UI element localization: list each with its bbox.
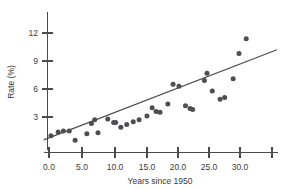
data-point <box>218 97 223 102</box>
x-tick-label-0: 0.0 <box>43 162 55 172</box>
y-tick-label-3: 3 <box>33 112 38 122</box>
data-point <box>176 84 181 89</box>
data-point <box>95 130 100 135</box>
data-point <box>137 117 142 122</box>
y-axis-title: Rate (%) <box>6 65 16 99</box>
data-point <box>237 51 242 56</box>
x-tick-label-5: 5.0 <box>76 162 88 172</box>
data-point <box>158 110 163 115</box>
y-tick-label-12: 12 <box>29 28 39 38</box>
scatter-chart: 12 9 6 3 0.0 5.0 10.0 15.0 20.0 25.0 30.… <box>0 0 285 189</box>
data-point <box>92 117 97 122</box>
data-point <box>231 76 236 81</box>
data-point <box>118 125 123 130</box>
data-point <box>210 88 215 93</box>
data-point <box>61 129 66 134</box>
x-tick-label-10: 10.0 <box>107 162 124 172</box>
plot-area: 12 9 6 3 0.0 5.0 10.0 15.0 20.0 25.0 30.… <box>0 0 285 189</box>
data-point <box>73 138 78 143</box>
x-tick-label-20: 20.0 <box>170 162 187 172</box>
data-point <box>183 103 188 108</box>
data-point <box>222 95 227 100</box>
data-point <box>124 122 129 127</box>
x-tick-label-30: 30.0 <box>232 162 249 172</box>
y-tick-label-9: 9 <box>33 56 38 66</box>
data-point <box>131 119 136 124</box>
x-tick-label-25: 25.0 <box>201 162 218 172</box>
data-point <box>48 133 53 138</box>
data-point <box>205 71 210 76</box>
regression-line <box>44 50 277 140</box>
data-point <box>84 131 89 136</box>
data-point <box>150 105 155 110</box>
data-point <box>244 36 249 41</box>
data-point <box>171 82 176 87</box>
data-point <box>67 129 72 134</box>
data-point <box>144 114 149 119</box>
y-tick-label-6: 6 <box>33 84 38 94</box>
x-axis-title: Years since 1950 <box>128 176 193 186</box>
data-point <box>165 101 170 106</box>
data-point <box>202 78 207 83</box>
x-tick-label-15: 15.0 <box>139 162 156 172</box>
data-point <box>190 107 195 112</box>
data-point <box>56 129 61 134</box>
data-point <box>105 116 110 121</box>
data-point <box>113 120 118 125</box>
